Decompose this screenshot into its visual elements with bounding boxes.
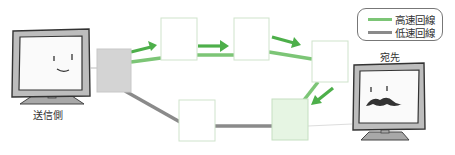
arrow-right-icon bbox=[272, 37, 301, 48]
sender-computer-icon bbox=[12, 29, 90, 104]
arrow-down-left-icon bbox=[311, 88, 333, 105]
high-speed-path bbox=[131, 52, 318, 100]
low-speed-line-swatch-icon bbox=[368, 31, 392, 34]
router-5 bbox=[272, 99, 308, 140]
legend-item-low-speed: 低速回線 bbox=[368, 25, 435, 39]
network-route-diagram: 送信側 宛先 高速回線 低速回線 bbox=[0, 0, 455, 155]
arrow-right-icon bbox=[131, 41, 157, 52]
legend-label-low-speed: 低速回線 bbox=[395, 25, 435, 40]
legend: 高速回線 低速回線 bbox=[357, 8, 443, 41]
router-1 bbox=[161, 18, 197, 60]
sender-label: 送信側 bbox=[33, 107, 63, 122]
arrow-right-icon bbox=[198, 40, 229, 52]
high-speed-line-swatch-icon bbox=[368, 18, 392, 21]
router-3 bbox=[312, 41, 348, 82]
router-2 bbox=[234, 18, 269, 60]
destination-link bbox=[308, 124, 352, 126]
destination-computer-icon bbox=[353, 63, 425, 140]
router-4 bbox=[179, 100, 215, 141]
sender-router bbox=[97, 49, 131, 92]
destination-label: 宛先 bbox=[380, 49, 400, 64]
